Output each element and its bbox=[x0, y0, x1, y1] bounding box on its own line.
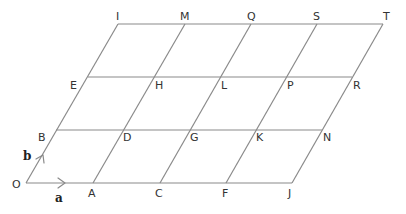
point-label-A: A bbox=[88, 187, 96, 200]
point-label-K: K bbox=[256, 131, 264, 144]
point-label-O: O bbox=[12, 178, 21, 191]
point-label-C: C bbox=[155, 187, 163, 200]
point-label-L: L bbox=[221, 79, 228, 92]
grid-column-line-3 bbox=[226, 24, 317, 183]
point-label-J: J bbox=[287, 187, 291, 200]
grid-lines bbox=[26, 24, 383, 183]
point-label-F: F bbox=[222, 187, 228, 200]
vector-b-label: b bbox=[23, 149, 31, 163]
point-label-I: I bbox=[116, 10, 119, 23]
point-label-G: G bbox=[190, 131, 199, 144]
grid-column-line-1 bbox=[93, 24, 185, 183]
point-label-T: T bbox=[382, 10, 390, 23]
parallelogram-grid-diagram: a b OACFJBDGKNEHLPRIMQST bbox=[0, 0, 406, 214]
point-label-D: D bbox=[123, 131, 131, 144]
point-label-M: M bbox=[180, 10, 190, 23]
vector-a-label: a bbox=[55, 191, 63, 205]
point-label-P: P bbox=[287, 79, 294, 92]
grid-column-line-4 bbox=[292, 24, 383, 183]
point-label-H: H bbox=[155, 79, 163, 92]
grid-column-line-2 bbox=[160, 24, 251, 183]
point-labels: OACFJBDGKNEHLPRIMQST bbox=[12, 10, 390, 200]
point-label-Q: Q bbox=[247, 10, 256, 23]
point-label-B: B bbox=[38, 131, 46, 144]
grid-column-line-0 bbox=[26, 24, 118, 183]
point-label-R: R bbox=[353, 79, 361, 92]
point-label-S: S bbox=[313, 10, 320, 23]
point-label-N: N bbox=[323, 131, 331, 144]
point-label-E: E bbox=[70, 79, 77, 92]
